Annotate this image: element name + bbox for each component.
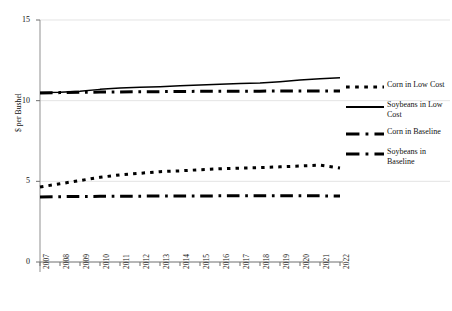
series-line-3 <box>40 91 340 93</box>
legend-line-swatch <box>346 101 384 113</box>
legend-label: Soybeans in Baseline <box>384 147 450 167</box>
chart-container: $ per Bushel 051015 20072008200920102011… <box>0 0 452 311</box>
legend-label: Corn in Baseline <box>384 127 441 137</box>
legend-label: Corn in Low Cost <box>384 80 445 90</box>
legend-line-swatch <box>346 81 384 93</box>
x-tick-label: 2008 <box>63 254 71 269</box>
x-tick-label: 2014 <box>183 254 191 269</box>
y-tick-label: 15 <box>8 16 30 24</box>
series-line-0 <box>40 165 340 187</box>
x-tick-label: 2019 <box>283 254 291 269</box>
series-line-2 <box>40 196 340 197</box>
legend-line-swatch <box>346 148 384 160</box>
x-tick-label: 2018 <box>263 254 271 269</box>
x-tick-label: 2022 <box>343 254 351 269</box>
y-axis-title: $ per Bushel <box>14 63 23 163</box>
legend-item[interactable]: Soybeans in Baseline <box>346 147 450 167</box>
x-tick-label: 2009 <box>83 254 91 269</box>
x-tick-label: 2020 <box>303 254 311 269</box>
x-tick-label: 2017 <box>243 254 251 269</box>
x-tick-label: 2012 <box>143 254 151 269</box>
x-tick-label: 2011 <box>123 254 131 269</box>
legend-label: Soybeans in Low Cost <box>384 100 450 120</box>
legend-item[interactable]: Corn in Baseline <box>346 127 450 140</box>
y-tick-label: 5 <box>8 177 30 185</box>
y-tick-label: 0 <box>8 258 30 266</box>
legend-item[interactable]: Soybeans in Low Cost <box>346 100 450 120</box>
y-tick-label: 10 <box>8 97 30 105</box>
x-tick-label: 2021 <box>323 254 331 269</box>
series-line-1 <box>40 78 340 93</box>
legend-item[interactable]: Corn in Low Cost <box>346 80 450 93</box>
x-tick-label: 2015 <box>203 254 211 269</box>
legend-line-swatch <box>346 128 384 140</box>
x-tick-label: 2016 <box>223 254 231 269</box>
x-tick-label: 2007 <box>43 254 51 269</box>
chart-legend: Corn in Low CostSoybeans in Low CostCorn… <box>346 80 450 174</box>
x-tick-label: 2013 <box>163 254 171 269</box>
x-tick-label: 2010 <box>103 254 111 269</box>
